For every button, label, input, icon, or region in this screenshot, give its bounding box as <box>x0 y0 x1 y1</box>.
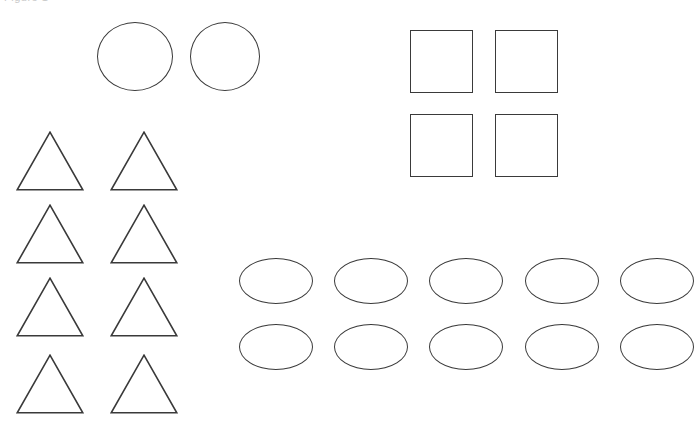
ellipse-10 <box>620 324 694 370</box>
ellipse-5 <box>620 258 694 304</box>
ellipse-6 <box>239 324 313 370</box>
triangle-2 <box>110 131 178 191</box>
square-3 <box>410 114 473 177</box>
ellipse-2 <box>334 258 408 304</box>
triangle-3 <box>16 204 84 264</box>
circle-2 <box>190 22 260 91</box>
ellipse-9 <box>525 324 599 370</box>
ellipse-7 <box>334 324 408 370</box>
triangle-1 <box>16 131 84 191</box>
shape-canvas: Figure 1 <box>0 0 700 427</box>
square-1 <box>410 30 473 93</box>
triangle-4 <box>110 204 178 264</box>
triangle-5 <box>16 277 84 337</box>
ellipse-1 <box>239 258 313 304</box>
ellipse-4 <box>525 258 599 304</box>
ellipse-8 <box>429 324 503 370</box>
square-4 <box>495 114 558 177</box>
triangle-6 <box>110 277 178 337</box>
circle-1 <box>97 22 173 91</box>
clipped-header-text: Figure 1 <box>4 0 48 3</box>
triangle-7 <box>16 354 84 414</box>
square-2 <box>495 30 558 93</box>
triangle-8 <box>110 354 178 414</box>
ellipse-3 <box>429 258 503 304</box>
